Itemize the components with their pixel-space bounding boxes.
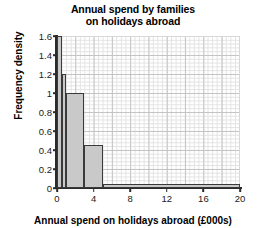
chart-title: Annual spend by families on holidays abr… xyxy=(0,3,266,27)
histogram-bar xyxy=(57,36,62,188)
bar-series xyxy=(57,36,240,188)
histogram-chart: Annual spend by families on holidays abr… xyxy=(0,0,266,228)
chart-title-line1: Annual spend by families xyxy=(0,3,266,15)
plot-area: 00.20.40.60.811.21.41.6 048121620 xyxy=(57,36,240,188)
chart-title-line2: on holidays abroad xyxy=(0,15,266,27)
histogram-bar xyxy=(103,184,240,188)
y-axis-label: Frequency density xyxy=(13,6,24,146)
histogram-bar xyxy=(62,74,67,188)
histogram-bar xyxy=(84,145,102,188)
x-axis-label: Annual spend on holidays abroad (£000s) xyxy=(0,215,266,226)
histogram-bar xyxy=(66,93,84,188)
